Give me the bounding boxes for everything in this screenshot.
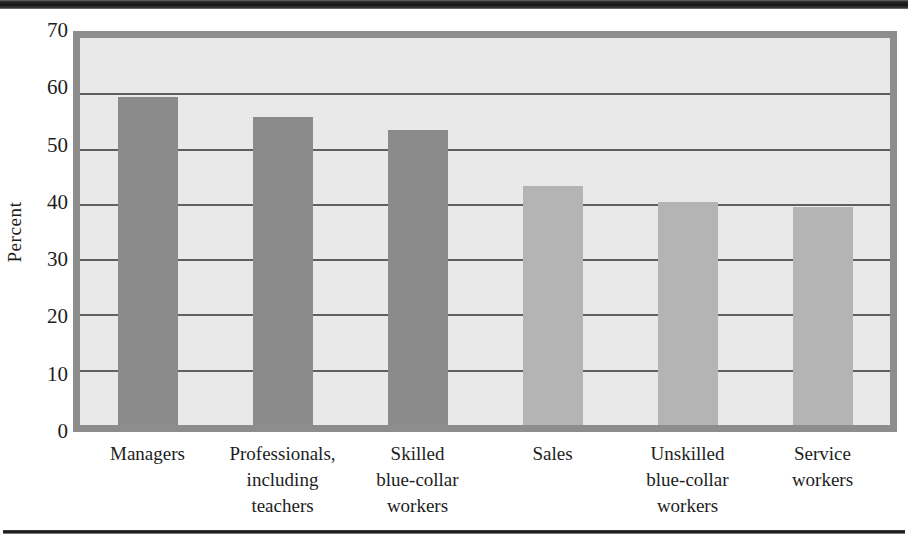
gridline xyxy=(80,314,890,316)
y-axis-tick-label: 10 xyxy=(24,364,68,385)
gridline xyxy=(80,204,890,206)
plot-area xyxy=(73,31,897,432)
y-axis-tick-label: 0 xyxy=(24,421,68,442)
x-axis-tick-label-line: blue-collar xyxy=(335,467,500,493)
x-axis-tick-label-line: workers xyxy=(605,493,770,519)
gridline xyxy=(80,93,890,95)
x-axis-tick-label-line: Service xyxy=(740,441,905,467)
x-axis-tick-label: Serviceworkers xyxy=(740,441,905,493)
x-axis-tick-label-line: workers xyxy=(335,493,500,519)
x-axis-tick-labels: ManagersProfessionals,includingteachersS… xyxy=(73,441,897,525)
bar xyxy=(523,186,583,425)
x-axis-tick-label-line: workers xyxy=(740,467,905,493)
bar xyxy=(658,202,718,425)
bar xyxy=(388,130,448,425)
gridline xyxy=(80,259,890,261)
gridline xyxy=(80,370,890,372)
bar xyxy=(793,207,853,425)
page-top-rule xyxy=(0,0,908,9)
gridline xyxy=(80,149,890,151)
y-axis-tick-label: 70 xyxy=(24,20,68,41)
y-axis-tick-label: 50 xyxy=(24,135,68,156)
bar xyxy=(253,117,313,425)
y-axis-tick-labels: 706050403020100 xyxy=(24,31,68,432)
y-axis-tick-label: 20 xyxy=(24,306,68,327)
plot-inner xyxy=(80,38,890,425)
y-axis-title: Percent xyxy=(4,172,26,292)
y-axis-tick-label: 40 xyxy=(24,192,68,213)
bar xyxy=(118,97,178,425)
y-axis-tick-label: 60 xyxy=(24,77,68,98)
page-bottom-rule xyxy=(3,530,905,534)
y-axis-tick-label: 30 xyxy=(24,249,68,270)
